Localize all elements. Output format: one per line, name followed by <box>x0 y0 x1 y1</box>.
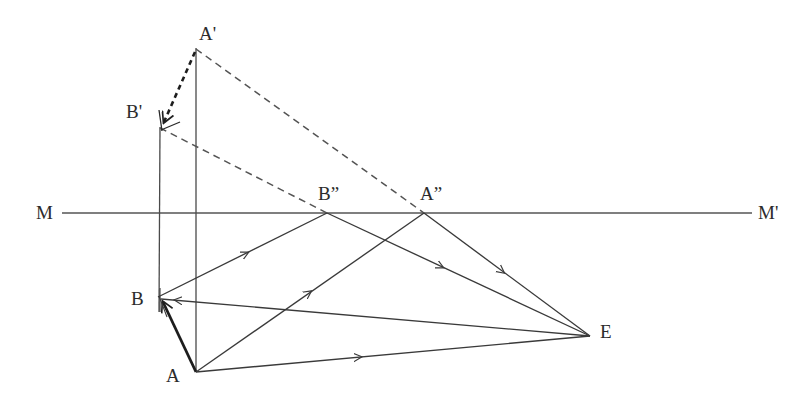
solid-arrow-A-to-B <box>163 302 196 372</box>
dashed-line-Aprime-to-Adoubleprime <box>196 49 424 213</box>
solid-line-A-to-Adoubleprime <box>196 213 424 372</box>
dashed-arrow-Aprime-to-Bprime <box>164 52 195 122</box>
solid-line-Adoubleprime-to-E <box>424 213 590 336</box>
vertical-line-Bprime-B <box>159 127 160 312</box>
solid-line-B-to-Bdoubleprime <box>158 213 327 297</box>
geometry-svg <box>0 0 805 418</box>
label-m-left: M <box>36 203 53 222</box>
label-b-prime: B' <box>126 102 142 121</box>
label-b-double-prime: B” <box>318 184 339 203</box>
label-a: A <box>166 366 180 385</box>
label-a-prime: A' <box>199 24 216 43</box>
label-a-double-prime: A” <box>420 184 442 203</box>
label-e: E <box>600 322 612 341</box>
label-b: B <box>131 289 144 308</box>
tick-mark-near-Bprime-2 <box>161 122 180 130</box>
solid-line-A-to-E <box>196 336 590 372</box>
geometry-diagram-canvas: A' B' B” A” M M' B A E <box>0 0 805 418</box>
solid-line-E-to-B <box>161 299 590 336</box>
dashed-line-Bprime-to-Bdoubleprime <box>160 128 327 213</box>
label-m-right: M' <box>758 203 778 222</box>
solid-line-Bdoubleprime-to-E <box>327 213 590 336</box>
